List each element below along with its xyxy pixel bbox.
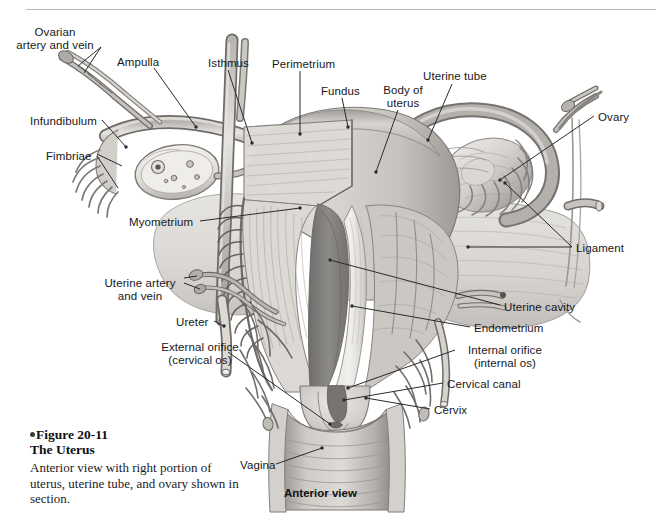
figure-page: Ovarian artery and vein Ampulla Isthmus … — [0, 0, 656, 526]
label-external-orifice: External orifice (cervical os) — [148, 341, 252, 367]
label-perimetrium: Perimetrium — [272, 58, 335, 71]
label-uterine-artery-and-vein: Uterine artery and vein — [96, 277, 184, 303]
bullet-icon — [30, 432, 35, 437]
figure-description: Anterior view with right portion of uter… — [30, 460, 245, 507]
figure-number-line: Figure 20-11 — [30, 428, 245, 443]
label-endometrium: Endometrium — [474, 322, 544, 335]
label-uterine-tube: Uterine tube — [423, 70, 487, 83]
figure-number: Figure 20-11 — [36, 427, 108, 442]
label-cervix: Cervix — [434, 404, 467, 417]
label-fimbriae: Fimbriae — [46, 150, 92, 163]
label-vagina: Vagina — [240, 459, 276, 472]
label-ovarian-artery-and-vein: Ovarian artery and vein — [0, 26, 110, 52]
label-internal-orifice: Internal orifice (internal os) — [455, 344, 555, 370]
label-cervical-canal: Cervical canal — [447, 378, 521, 391]
label-ligament: Ligament — [576, 242, 624, 255]
figure-title: The Uterus — [30, 443, 245, 458]
anterior-view-caption: Anterior view — [284, 487, 357, 499]
label-myometrium: Myometrium — [129, 216, 193, 229]
label-ovary: Ovary — [598, 111, 629, 124]
label-uterine-cavity: Uterine cavity — [504, 301, 575, 314]
label-fundus: Fundus — [321, 85, 360, 98]
label-ampulla: Ampulla — [117, 56, 159, 69]
label-ureter: Ureter — [176, 316, 209, 329]
label-isthmus: Isthmus — [208, 57, 249, 70]
figure-caption-block: Figure 20-11 The Uterus Anterior view wi… — [30, 428, 245, 507]
label-infundibulum: Infundibulum — [30, 115, 97, 128]
label-body-of-uterus: Body of uterus — [372, 84, 434, 110]
